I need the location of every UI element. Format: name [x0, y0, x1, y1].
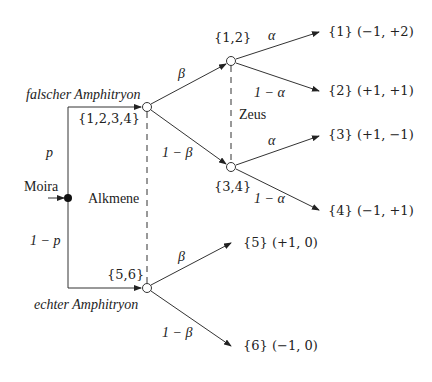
- label-beta-lower: β: [178, 250, 185, 264]
- label-node-1234: {1,2,3,4}: [78, 112, 140, 125]
- node-1234: [143, 103, 152, 112]
- edge-beta-5: [151, 243, 231, 285]
- label-1-minus-beta-upper: 1 − β: [162, 146, 192, 160]
- outcome-6: {6} (−1, 0): [243, 339, 318, 352]
- label-1-minus-alpha-top: 1 − α: [254, 86, 285, 100]
- outcome-4: {4} (−1, +1): [328, 204, 414, 217]
- label-p: p: [46, 146, 53, 160]
- label-moira: Moira: [24, 180, 58, 194]
- label-beta-upper: β: [178, 67, 185, 81]
- moira-node: [64, 194, 72, 202]
- label-1-minus-p: 1 − p: [30, 234, 60, 248]
- edge-beta-upper: [151, 64, 226, 104]
- outcome-1: {1} (−1, +2): [328, 25, 414, 38]
- label-echter-amphitryon: echter Amphitryon: [34, 298, 138, 312]
- label-1-minus-alpha-bottom: 1 − α: [254, 192, 285, 206]
- label-node-34: {3,4}: [214, 180, 251, 193]
- node-56: [143, 284, 152, 293]
- label-node-56: {5,6}: [107, 268, 144, 281]
- node-12: [227, 57, 236, 66]
- outcome-5: {5} (+1, 0): [243, 236, 318, 249]
- label-alkmene: Alkmene: [88, 192, 139, 206]
- node-34: [227, 163, 236, 172]
- label-node-12: {1,2}: [214, 31, 251, 44]
- edge-alpha-3: [236, 136, 319, 165]
- label-alpha-top: α: [268, 29, 275, 43]
- outcome-2: {2} (+1, +1): [328, 84, 414, 97]
- label-zeus: Zeus: [239, 108, 266, 122]
- outcome-3: {3} (+1, −1): [328, 128, 414, 141]
- label-1-minus-beta-lower: 1 − β: [162, 326, 192, 340]
- label-falscher-amphitryon: falscher Amphitryon: [26, 88, 140, 102]
- label-alpha-bottom: α: [268, 134, 275, 148]
